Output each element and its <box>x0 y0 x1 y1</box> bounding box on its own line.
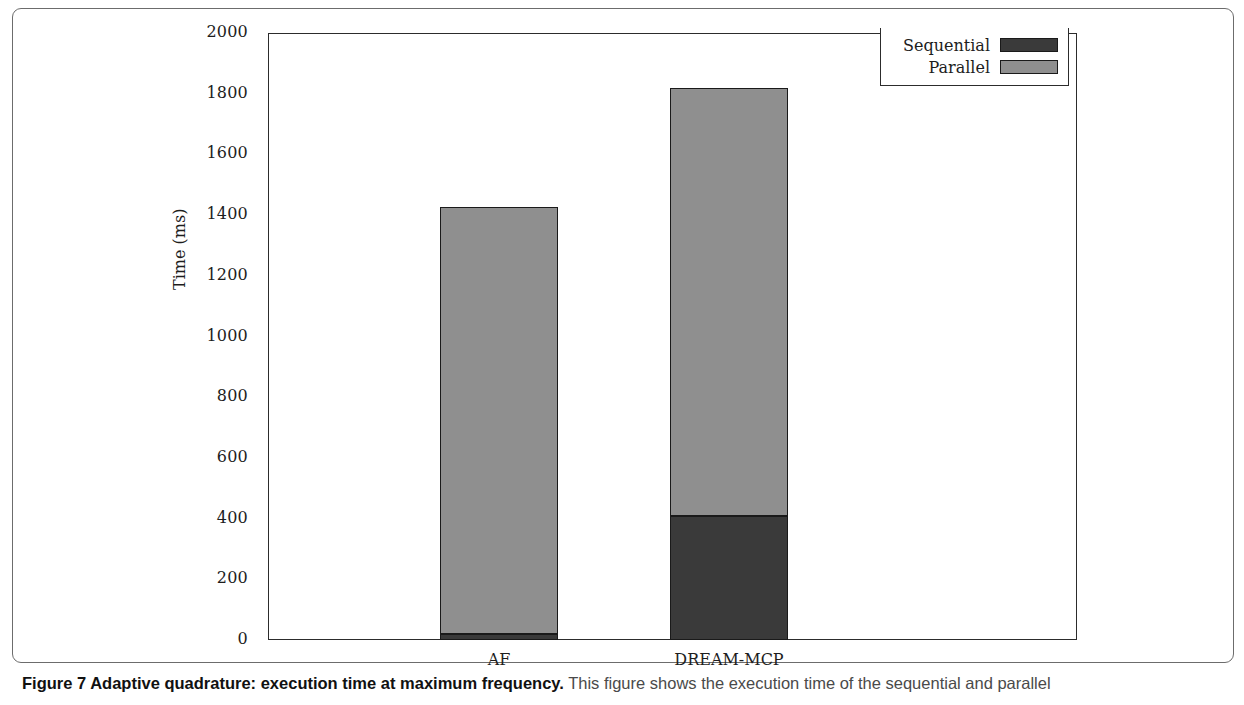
chart-legend: SequentialParallel <box>880 28 1069 86</box>
y-axis-tick-label: 1200 <box>206 265 248 284</box>
bar-segment-parallel <box>440 207 558 634</box>
y-axis-tick-label: 800 <box>217 386 248 405</box>
bar-group <box>670 33 788 640</box>
x-axis-tick-label: AF <box>379 650 619 669</box>
y-axis-title: Time (ms) <box>170 209 189 290</box>
y-axis-tick-label: 200 <box>217 568 248 587</box>
y-axis-tick-label: 0 <box>238 629 248 648</box>
y-axis-tick-label: 400 <box>217 508 248 527</box>
y-axis-tick-label: 1600 <box>206 143 248 162</box>
x-axis-tick-label: DREAM-MCP <box>609 650 849 669</box>
legend-swatch-sequential <box>1000 38 1058 52</box>
chart-area: Time (ms) 020040060080010001200140016001… <box>0 0 1244 668</box>
legend-item: Parallel <box>891 56 1058 78</box>
figure-caption-title: Figure 7 Adaptive quadrature: execution … <box>22 674 564 692</box>
bar-group <box>440 33 558 640</box>
y-axis-tick-label: 1800 <box>206 83 248 102</box>
bar-segment-sequential <box>440 634 558 640</box>
y-axis-tick-label: 1000 <box>206 326 248 345</box>
bar-segment-sequential <box>670 516 788 640</box>
y-axis-tick-label: 2000 <box>206 22 248 41</box>
y-axis-tick-label: 1400 <box>206 204 248 223</box>
bar-segment-parallel <box>670 88 788 517</box>
figure-caption-body: This figure shows the execution time of … <box>564 674 1051 692</box>
legend-item-label: Sequential <box>903 36 990 55</box>
y-axis-tick-label: 600 <box>217 447 248 466</box>
legend-swatch-parallel <box>1000 60 1058 74</box>
legend-item-label: Parallel <box>928 58 990 77</box>
figure-caption: Figure 7 Adaptive quadrature: execution … <box>22 672 1232 694</box>
legend-item: Sequential <box>891 34 1058 56</box>
